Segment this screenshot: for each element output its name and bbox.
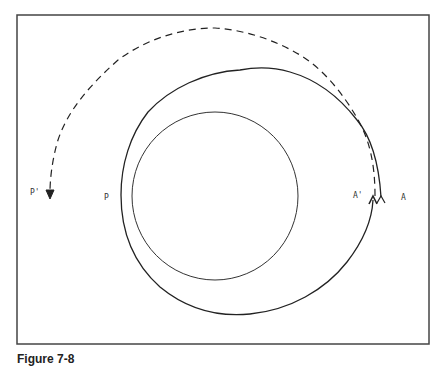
- label-a: A: [401, 193, 406, 202]
- arrowhead-down-icon: [46, 190, 54, 199]
- solid-orbit-path: [121, 68, 381, 315]
- figure-caption: Figure 7-8: [17, 352, 74, 366]
- label-a-prime: A': [353, 191, 363, 200]
- figure-frame: [17, 15, 429, 344]
- label-p-prime: P': [30, 188, 40, 197]
- inner-circle: [132, 112, 298, 280]
- start-caret-icon: [377, 196, 385, 203]
- label-p: P: [104, 193, 109, 202]
